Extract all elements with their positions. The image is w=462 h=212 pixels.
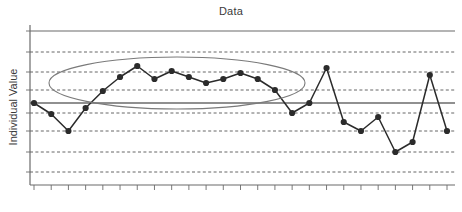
data-point-4	[83, 105, 89, 111]
data-point-18	[323, 65, 329, 71]
data-point-20	[358, 128, 364, 134]
data-point-6	[117, 74, 123, 80]
data-point-10	[186, 74, 192, 80]
data-point-3	[65, 128, 71, 134]
data-point-7	[134, 63, 140, 69]
data-point-12	[220, 76, 226, 82]
data-point-22	[392, 149, 398, 155]
highlight-ellipse-annotation	[49, 57, 305, 109]
plot-area	[0, 0, 462, 212]
data-markers	[31, 63, 450, 155]
chart-container: Data Individual Value	[0, 0, 462, 212]
data-point-8	[151, 76, 157, 82]
data-point-9	[169, 68, 175, 74]
data-point-16	[289, 110, 295, 116]
x-axis-ticks	[34, 185, 447, 190]
data-point-15	[272, 87, 278, 93]
data-line	[34, 66, 447, 152]
data-point-23	[409, 139, 415, 145]
data-point-19	[341, 119, 347, 125]
data-point-1	[31, 100, 37, 106]
data-point-2	[48, 111, 54, 117]
data-point-5	[100, 88, 106, 94]
data-point-13	[237, 70, 243, 76]
data-point-21	[375, 114, 381, 120]
data-point-17	[306, 100, 312, 106]
gridlines	[30, 52, 455, 172]
data-point-25	[444, 128, 450, 134]
data-point-11	[203, 80, 209, 86]
data-point-14	[255, 76, 261, 82]
data-point-24	[427, 72, 433, 78]
